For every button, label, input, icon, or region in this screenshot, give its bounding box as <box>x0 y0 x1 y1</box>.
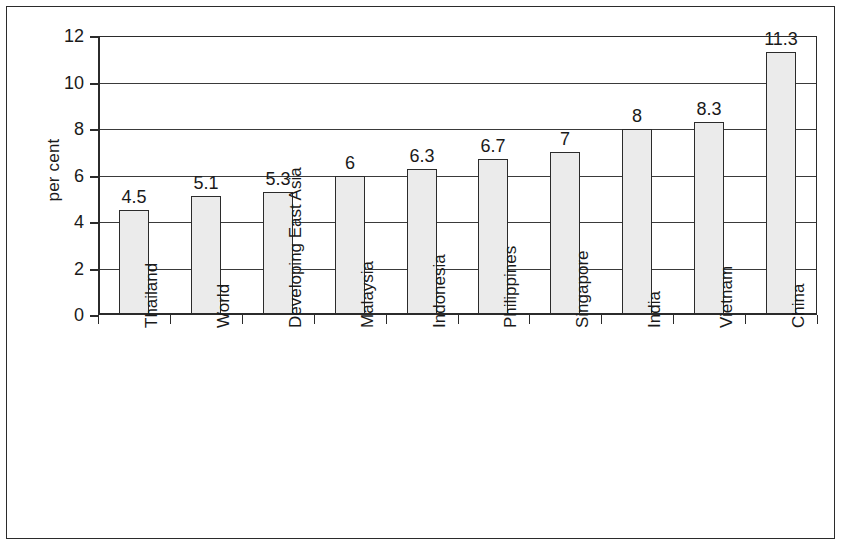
bar[interactable] <box>622 129 652 315</box>
y-axis-tick-label: 0 <box>44 306 84 324</box>
x-axis-tick-mark <box>98 315 99 324</box>
x-axis-category-label: Developing East Asia <box>287 167 304 328</box>
y-axis-tick-mark <box>90 315 98 317</box>
plot-area: 4.55.15.366.36.7788.311.3 <box>98 36 817 315</box>
bar-value-label: 5.1 <box>169 174 243 192</box>
x-axis-tick-mark <box>386 315 387 324</box>
x-axis-tick-mark <box>529 315 530 324</box>
x-axis-tick-mark <box>458 315 459 324</box>
gridline <box>98 83 817 84</box>
x-axis-tick-mark <box>817 315 818 324</box>
x-axis-tick-mark <box>242 315 243 324</box>
y-axis-tick-mark <box>90 176 98 178</box>
x-axis-category-label: Thailand <box>143 263 160 328</box>
y-axis-tick-label: 2 <box>44 260 84 278</box>
chart-figure: per cent 4.55.15.366.36.7788.311.3 02468… <box>0 0 843 546</box>
y-axis-tick-label: 4 <box>44 213 84 231</box>
y-axis-tick-mark <box>90 129 98 131</box>
x-axis-category-label: Indonesia <box>431 254 448 328</box>
bar-value-label: 6.7 <box>456 137 530 155</box>
bar-value-label: 4.5 <box>97 188 171 206</box>
bar[interactable] <box>766 52 796 315</box>
gridline <box>98 36 817 37</box>
x-axis-tick-mark <box>314 315 315 324</box>
y-axis-tick-mark <box>90 83 98 85</box>
bar-value-label: 11.3 <box>744 30 818 48</box>
x-axis-tick-mark <box>601 315 602 324</box>
x-axis-tick-mark <box>170 315 171 324</box>
bar-value-label: 8 <box>600 107 674 125</box>
x-axis-tick-mark <box>745 315 746 324</box>
bar-value-label: 6 <box>313 154 387 172</box>
y-axis-tick-label: 10 <box>44 74 84 92</box>
y-axis-tick-mark <box>90 222 98 224</box>
x-axis-category-label: Malaysia <box>359 261 376 328</box>
bar-value-label: 7 <box>528 130 602 148</box>
y-axis-tick-label: 12 <box>44 27 84 45</box>
x-axis-category-label: Philippines <box>502 246 519 328</box>
y-axis-tick-label: 6 <box>44 167 84 185</box>
y-axis-tick-label: 8 <box>44 120 84 138</box>
x-axis-category-label: Singapore <box>574 250 591 328</box>
x-axis-category-label: World <box>215 284 232 328</box>
x-axis-category-label: Vietnam <box>718 266 735 328</box>
bar-value-label: 8.3 <box>672 100 746 118</box>
y-axis-tick-mark <box>90 36 98 38</box>
x-axis-tick-mark <box>673 315 674 324</box>
bar-value-label: 6.3 <box>385 147 459 165</box>
x-axis-category-label: China <box>790 284 807 328</box>
y-axis-tick-mark <box>90 269 98 271</box>
x-axis-category-label: India <box>646 291 663 328</box>
